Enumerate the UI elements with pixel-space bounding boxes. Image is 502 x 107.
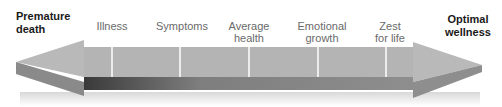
- arrow-shaft-band: [84, 77, 414, 90]
- right-end-label: Optimal wellness: [438, 13, 498, 39]
- left-end-label: Premature death: [16, 10, 70, 36]
- stage-label-emotional-growth: Emotional growth: [290, 20, 354, 44]
- double-arrow-continuum: [0, 0, 502, 107]
- arrow-shadow: [20, 92, 480, 106]
- stage-label-average-health: Average health: [220, 20, 278, 44]
- stage-label-zest-for-life: Zest for life: [370, 20, 410, 44]
- stage-label-illness: Illness: [88, 20, 136, 32]
- stage-label-symptoms: Symptoms: [148, 20, 216, 32]
